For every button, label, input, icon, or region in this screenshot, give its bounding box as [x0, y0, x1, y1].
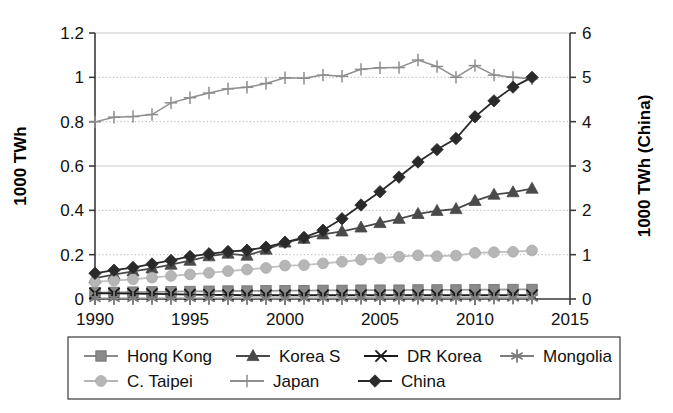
y-tick-label-0.8: 0.8: [60, 113, 84, 132]
legend-label: Mongolia: [543, 347, 613, 366]
marker-circle: [375, 253, 386, 264]
circle-marker: [337, 256, 348, 267]
marker-square: [96, 351, 106, 361]
marker-plus: [222, 83, 234, 95]
marker-circle: [166, 271, 177, 282]
series-line: [95, 60, 532, 122]
series-line: [95, 77, 532, 273]
marker-circle: [413, 250, 424, 261]
legend-label: Hong Kong: [127, 347, 212, 366]
circle-marker: [204, 267, 215, 278]
marker-plus: [412, 54, 424, 66]
data-series: [89, 54, 538, 305]
energy-consumption-line-chart: 00.20.40.60.811.2 0123456 19901995200020…: [0, 0, 673, 413]
x-tick-label-2005: 2005: [361, 310, 399, 329]
circle-marker: [527, 245, 538, 256]
y-tick-label-0: 0: [75, 290, 84, 309]
y2-tick-label-4: 4: [582, 113, 591, 132]
x-tick-label-1990: 1990: [76, 310, 114, 329]
marker-plus: [469, 59, 481, 71]
legend-label: Korea S: [279, 347, 340, 366]
marker-plus: [165, 97, 177, 109]
circle-marker: [299, 260, 310, 271]
circle-marker: [489, 247, 500, 258]
circle-marker: [394, 251, 405, 262]
marker-circle: [470, 247, 481, 258]
marker-circle: [451, 250, 462, 261]
marker-circle: [147, 272, 158, 283]
circle-marker: [166, 271, 177, 282]
marker-circle: [356, 254, 367, 265]
x-tick-label-1995: 1995: [171, 310, 209, 329]
y-tick-label-0.6: 0.6: [60, 157, 84, 176]
y-axis-title: 1000 TWh: [11, 126, 30, 205]
marker-circle: [96, 376, 107, 387]
x-tick-label-2000: 2000: [266, 310, 304, 329]
series-c-taipei: [90, 245, 538, 287]
marker-plus: [203, 87, 215, 99]
marker-circle: [299, 260, 310, 271]
marker-plus: [393, 61, 405, 73]
circle-marker: [356, 254, 367, 265]
marker-circle: [527, 245, 538, 256]
marker-plus: [317, 69, 329, 81]
y2-tick-label-6: 6: [582, 24, 591, 43]
circle-marker: [147, 272, 158, 283]
y-axis-tick-labels: 00.20.40.60.811.2: [60, 24, 84, 309]
marker-circle: [242, 264, 253, 275]
marker-circle: [185, 269, 196, 280]
circle-marker: [261, 263, 272, 274]
y2-tick-label-3: 3: [582, 157, 591, 176]
marker-diamond: [336, 213, 348, 225]
y2-tick-label-0: 0: [582, 290, 591, 309]
circle-marker: [413, 250, 424, 261]
circle-marker: [508, 246, 519, 257]
marker-triangle: [526, 182, 538, 193]
series-china: [89, 71, 538, 279]
circle-marker: [470, 247, 481, 258]
marker-circle: [128, 274, 139, 285]
marker-circle: [261, 263, 272, 274]
axis-ticks: [89, 33, 576, 305]
diamond-marker: [355, 199, 367, 211]
square-marker: [96, 351, 106, 361]
marker-plus: [336, 70, 348, 82]
y2-axis-tick-labels: 0123456: [582, 24, 591, 309]
circle-marker: [280, 260, 291, 271]
circle-marker: [242, 264, 253, 275]
circle-marker: [432, 251, 443, 262]
series-korea-s: [89, 182, 538, 283]
circle-marker: [375, 253, 386, 264]
series-line: [95, 293, 532, 295]
marker-plus: [374, 62, 386, 74]
marker-circle: [318, 258, 329, 269]
marker-plus: [279, 72, 291, 84]
grid-lines: [95, 33, 570, 255]
marker-plus: [241, 81, 253, 93]
circle-marker: [223, 266, 234, 277]
marker-circle: [508, 246, 519, 257]
x-axis-tick-labels: 199019952000200520102015: [76, 310, 589, 329]
y2-axis-title: 1000 TWh (China): [635, 95, 654, 238]
marker-circle: [489, 247, 500, 258]
circle-marker: [451, 250, 462, 261]
marker-plus: [260, 77, 272, 89]
marker-plus: [184, 92, 196, 104]
y-tick-label-1.2: 1.2: [60, 24, 84, 43]
legend-label: Japan: [273, 372, 319, 391]
y-tick-label-0.4: 0.4: [60, 201, 84, 220]
marker-plus: [488, 69, 500, 81]
diamond-marker: [336, 213, 348, 225]
legend-label: DR Korea: [407, 347, 482, 366]
x-tick-label-2015: 2015: [551, 310, 589, 329]
y-tick-label-0.2: 0.2: [60, 246, 84, 265]
chart-container: 00.20.40.60.811.2 0123456 19901995200020…: [0, 0, 673, 413]
marker-circle: [394, 251, 405, 262]
marker-circle: [280, 260, 291, 271]
marker-plus: [431, 60, 443, 72]
circle-marker: [128, 274, 139, 285]
diamond-marker: [526, 71, 538, 83]
marker-diamond: [507, 81, 519, 93]
circle-marker: [96, 376, 107, 387]
y2-tick-label-1: 1: [582, 246, 591, 265]
